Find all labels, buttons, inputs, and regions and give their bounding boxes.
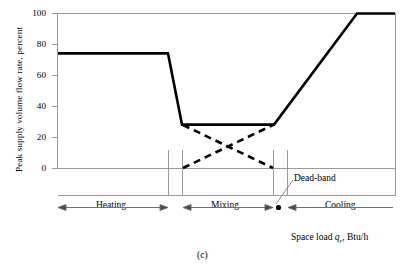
mixing-arrow-right <box>265 205 273 211</box>
series-supply-volume-flow-rate <box>58 14 395 125</box>
zone-divider-lines <box>169 150 288 196</box>
cooling-arrow-left <box>288 205 296 211</box>
y-axis-ticks <box>52 14 58 169</box>
figure-container: Peak supply volume flow rate, percent 10… <box>0 0 408 270</box>
heating-arrow-left <box>58 205 66 211</box>
heating-arrow-right <box>160 205 168 211</box>
zone-arrow-row <box>58 205 393 211</box>
dead-band-leader-line <box>276 180 293 204</box>
mixing-arrow-left <box>183 205 191 211</box>
dead-band-dot <box>276 205 281 210</box>
chart-plot-area <box>0 0 408 270</box>
